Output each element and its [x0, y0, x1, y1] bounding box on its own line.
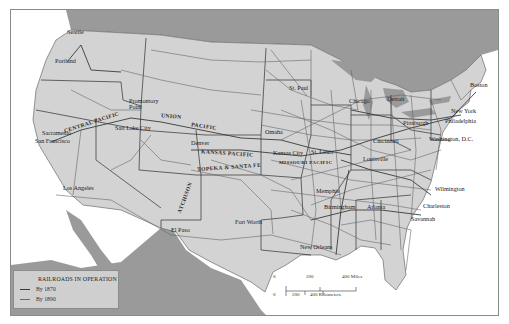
legend-title: RAILROADS IN OPERATION [38, 276, 117, 282]
city-philadelphia: Philadelphia [445, 118, 476, 124]
legend-label-1870: By 1870 [36, 286, 56, 292]
scale-miles-0: 0 [273, 274, 276, 279]
legend-swatch-1870 [20, 289, 30, 290]
city-new-orleans: New Orleans [300, 244, 332, 250]
legend: RAILROADS IN OPERATION By 1870 By 1890 [13, 270, 119, 309]
scale-km-0: 0 [273, 292, 276, 297]
city-salt-lake-city: Salt Lake City [115, 125, 151, 131]
city-wilmington: Wilmington [435, 186, 465, 192]
city-seattle: Seattle [67, 29, 84, 35]
city-los-angeles: Los Angeles [63, 185, 94, 191]
city-promontory-point: Promontory Point [129, 98, 169, 110]
legend-swatch-1890 [20, 299, 30, 300]
city-el-paso: El Paso [171, 227, 190, 233]
scale-miles-400: 400 Miles [342, 274, 362, 279]
legend-item-1890: By 1890 [20, 296, 56, 302]
city-chicago: Chicago [349, 98, 370, 104]
scale-km-200: 200 [292, 292, 300, 297]
city-boston: Boston [470, 82, 488, 88]
city-cincinnati: Cincinnati [373, 138, 399, 144]
city-st-louis: St. Louis [311, 149, 333, 155]
city-pittsburgh: Pittsburgh [403, 120, 428, 126]
scale-km-400: 400 Kilometers [310, 292, 341, 297]
city-savannah: Savannah [411, 216, 435, 222]
legend-item-1870: By 1870 [20, 286, 56, 292]
city-denver: Denver [191, 140, 209, 146]
legend-label-1890: By 1890 [36, 296, 56, 302]
city-portland: Portland [55, 58, 76, 64]
city-st-paul: St. Paul [289, 85, 308, 91]
city-atlanta: Atlanta [367, 204, 385, 210]
city-detroit: Detroit [387, 96, 405, 102]
city-charleston: Charleston [423, 203, 450, 209]
scale-bar: 0 200 400 Miles 0 200 400 Kilometers [273, 274, 373, 304]
city-omaha: Omaha [265, 129, 283, 135]
city-washington-dc: Washington, D.C. [429, 136, 473, 142]
rr-missouri-pacific: MISSOURI PACIFIC [279, 160, 332, 165]
city-kansas-city: Kansas City [273, 150, 303, 156]
city-fort-worth: Fort Worth [235, 219, 262, 225]
city-birmingham: Birmingham [324, 204, 355, 210]
scale-miles-200: 200 [306, 274, 314, 279]
city-memphis: Memphis [316, 188, 339, 194]
city-new-york: New York [451, 108, 476, 114]
city-louisville: Louisville [363, 156, 388, 162]
city-san-francisco: San Francisco [35, 138, 70, 144]
